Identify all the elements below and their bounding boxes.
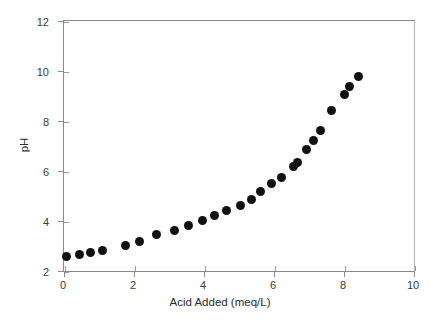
x-tick-label-4: 4 <box>200 279 206 291</box>
data-point <box>152 230 161 239</box>
data-point <box>293 158 302 167</box>
data-point <box>277 173 286 182</box>
x-tick-label-0: 0 <box>60 279 66 291</box>
y-tick-inner <box>64 72 69 73</box>
data-point <box>236 201 245 210</box>
y-tick-label-8: 8 <box>43 116 49 128</box>
data-point <box>170 226 179 235</box>
data-point <box>302 145 311 154</box>
x-tick-label-10: 10 <box>407 279 419 291</box>
x-tick-label-6: 6 <box>270 279 276 291</box>
x-tick-inner <box>275 266 276 271</box>
data-point <box>135 237 144 246</box>
data-point <box>184 221 193 230</box>
x-tick-8 <box>344 271 345 277</box>
y-tick-inner <box>64 172 69 173</box>
x-tick-inner <box>345 266 346 271</box>
y-tick-label-4: 4 <box>43 216 49 228</box>
data-point <box>267 179 276 188</box>
y-tick-label-6: 6 <box>43 166 49 178</box>
x-tick-inner <box>65 266 66 271</box>
y-tick-8: 8 <box>58 121 64 122</box>
y-tick-inner <box>64 22 69 23</box>
y-tick-label-12: 12 <box>37 16 49 28</box>
x-tick-4 <box>204 271 205 277</box>
data-point <box>316 126 325 135</box>
y-tick-label-2: 2 <box>43 266 49 278</box>
x-tick-10 <box>414 271 415 277</box>
data-point <box>340 90 349 99</box>
y-tick-label-10: 10 <box>37 66 49 78</box>
x-tick-label-2: 2 <box>130 279 136 291</box>
data-point <box>256 187 265 196</box>
y-tick-4: 4 <box>58 221 64 222</box>
x-tick-2 <box>134 271 135 277</box>
data-point <box>62 252 71 261</box>
y-tick-12: 12 <box>58 21 64 22</box>
data-point <box>210 211 219 220</box>
data-point <box>86 248 95 257</box>
y-tick-inner <box>64 122 69 123</box>
x-tick-inner <box>135 266 136 271</box>
data-point <box>222 206 231 215</box>
y-axis-label-container: pH <box>14 0 34 290</box>
data-point <box>98 246 107 255</box>
data-point <box>327 106 336 115</box>
y-tick-inner <box>64 222 69 223</box>
data-point <box>198 216 207 225</box>
x-axis-label: Acid Added (meq/L) <box>0 296 440 308</box>
y-tick-10: 10 <box>58 71 64 72</box>
chart-figure: pH 24681012 Acid Added (meq/L) 0246810 <box>0 0 440 323</box>
y-tick-6: 6 <box>58 171 64 172</box>
x-tick-0 <box>64 271 65 277</box>
plot-area: 24681012 <box>63 20 415 272</box>
data-point <box>247 195 256 204</box>
y-axis-label: pH <box>18 138 30 153</box>
data-point <box>354 72 363 81</box>
x-tick-label-8: 8 <box>340 279 346 291</box>
data-point <box>289 162 298 171</box>
data-point <box>309 136 318 145</box>
data-points-layer <box>64 21 414 271</box>
data-point <box>121 241 130 250</box>
x-tick-inner <box>415 266 416 271</box>
data-point <box>345 82 354 91</box>
x-tick-6 <box>274 271 275 277</box>
data-point <box>75 250 84 259</box>
x-tick-inner <box>205 266 206 271</box>
